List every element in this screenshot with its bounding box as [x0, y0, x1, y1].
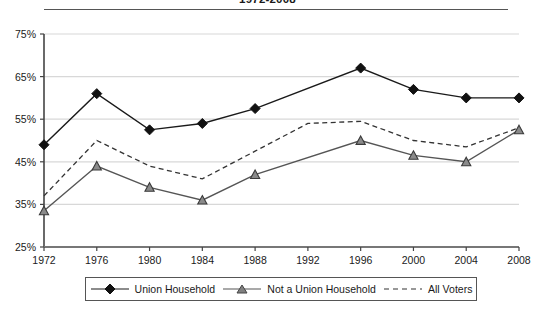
data-point-marker — [356, 63, 366, 73]
y-tick-label: 55% — [15, 113, 36, 125]
y-tick-label: 45% — [15, 156, 36, 168]
data-point-marker — [514, 93, 524, 103]
data-point-marker — [461, 93, 471, 103]
data-point-marker — [145, 125, 155, 135]
chart-figure: 1972-2008 25%35%45%55%65%75% 19721976198… — [0, 0, 535, 311]
y-tick-label: 65% — [15, 71, 36, 83]
series-lines-group — [44, 68, 519, 211]
x-tick-labels-group: 1972197619801984198819921996200020042008 — [32, 254, 531, 266]
chart-legend: Union Household Not a Union Household Al… — [85, 277, 477, 301]
series-line — [44, 121, 519, 196]
data-point-marker — [145, 183, 154, 192]
data-point-marker — [356, 136, 365, 145]
x-tick-label: 2008 — [507, 254, 531, 266]
legend-item-union-household: Union Household — [88, 282, 218, 296]
axes-group — [40, 34, 519, 251]
x-tick-label: 1984 — [191, 254, 215, 266]
x-tick-label: 2000 — [402, 254, 426, 266]
legend-marker-diamond-icon — [90, 282, 130, 296]
legend-label-not-union-household: Not a Union Household — [267, 283, 376, 295]
y-tick-label: 25% — [15, 241, 36, 253]
y-tick-labels-group: 25%35%45%55%65%75% — [15, 28, 36, 253]
series-markers-group — [39, 63, 524, 215]
legend-item-all-voters: All Voters — [381, 282, 474, 296]
data-point-marker — [92, 161, 101, 170]
data-point-marker — [408, 84, 418, 94]
legend-marker-dashed-icon — [383, 282, 423, 296]
x-tick-label: 1988 — [243, 254, 267, 266]
y-tick-label: 75% — [15, 28, 36, 40]
series-line — [44, 68, 519, 145]
chart-plot-area: 25%35%45%55%65%75% 197219761980198419881… — [0, 0, 535, 311]
x-tick-label: 2004 — [455, 254, 479, 266]
data-point-marker — [250, 104, 260, 114]
legend-label-all-voters: All Voters — [428, 283, 472, 295]
legend-marker-triangle-icon — [222, 282, 262, 296]
x-tick-label: 1980 — [138, 254, 162, 266]
series-line — [44, 130, 519, 211]
x-tick-label: 1976 — [85, 254, 109, 266]
x-tick-label: 1996 — [349, 254, 373, 266]
gridlines-group — [44, 34, 519, 204]
legend-label-union-household: Union Household — [135, 283, 216, 295]
x-tick-label: 1972 — [32, 254, 56, 266]
x-tick-label: 1992 — [296, 254, 320, 266]
y-tick-label: 35% — [15, 198, 36, 210]
legend-item-not-union-household: Not a Union Household — [220, 282, 378, 296]
data-point-marker — [197, 118, 207, 128]
